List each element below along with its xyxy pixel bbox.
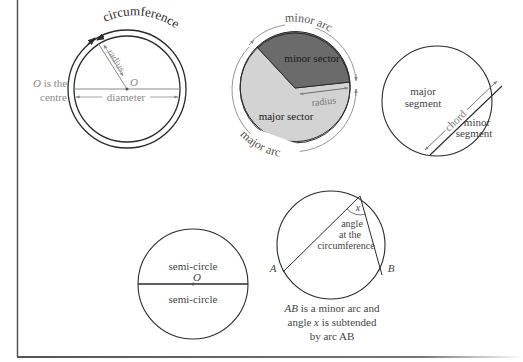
- major-segment-label-line2: segment: [405, 97, 442, 109]
- circumference-diagram: circumference radius diameter O O is the…: [33, 3, 188, 148]
- angle-at-circumference-diagram: x angle at the circumference A B AB is a…: [269, 191, 395, 342]
- sectors-diagram: minor arc major arc minor sector major s…: [232, 10, 356, 164]
- major-segment-label-line1: major: [410, 85, 436, 97]
- minor-segment-label-line2: segment: [456, 127, 493, 139]
- minor-sector-label: minor sector: [284, 52, 340, 64]
- circle-parts-diagram: circumference radius diameter O O is the…: [0, 0, 523, 362]
- angle-x-label: x: [355, 202, 361, 213]
- centre-note-line2: centre: [40, 91, 67, 103]
- caption-line3: by arc AB: [310, 330, 355, 342]
- angle-label-line1: angle: [341, 218, 363, 229]
- semicircles-diagram: O semi-circle semi-circle: [138, 229, 248, 339]
- caption-line1: AB is a minor arc and: [283, 302, 380, 314]
- point-b-label: B: [388, 262, 395, 274]
- diameter-label: diameter: [107, 91, 146, 103]
- major-sector-label: major sector: [259, 110, 314, 122]
- upper-semicircle-label: semi-circle: [169, 260, 218, 272]
- segments-diagram: chord major segment minor segment: [382, 46, 502, 156]
- centre-note-line1: O is the: [33, 77, 67, 89]
- angle-label-line2: at the: [339, 229, 361, 240]
- centre-point: [126, 88, 129, 91]
- lower-semicircle-label: semi-circle: [169, 293, 218, 305]
- semicircle-centre-label: O: [193, 271, 201, 283]
- angle-label-line3: circumference: [317, 240, 375, 251]
- point-a-label: A: [269, 262, 277, 274]
- circumference-label: circumference: [100, 3, 182, 31]
- chord-to-b: [360, 196, 382, 275]
- diagram-frame: circumference radius diameter O O is the…: [0, 0, 523, 362]
- circumference-arrow-icon: [88, 38, 95, 44]
- caption-line2: angle x is subtended: [288, 316, 377, 328]
- bottom-border: [17, 356, 523, 358]
- centre-label: O: [130, 76, 138, 88]
- minor-arc-arrow-icon: [249, 40, 254, 45]
